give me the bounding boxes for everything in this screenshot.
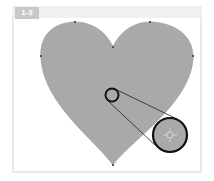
anchor-point xyxy=(192,55,194,57)
anchor-point xyxy=(40,55,42,57)
small-highlight-circle xyxy=(106,89,119,102)
heart-diagram xyxy=(0,0,214,181)
anchor-point xyxy=(74,21,76,23)
anchor-point xyxy=(149,21,151,23)
anchor-point xyxy=(112,164,114,166)
anchor-point xyxy=(112,46,114,48)
magnified-circle xyxy=(153,118,187,152)
